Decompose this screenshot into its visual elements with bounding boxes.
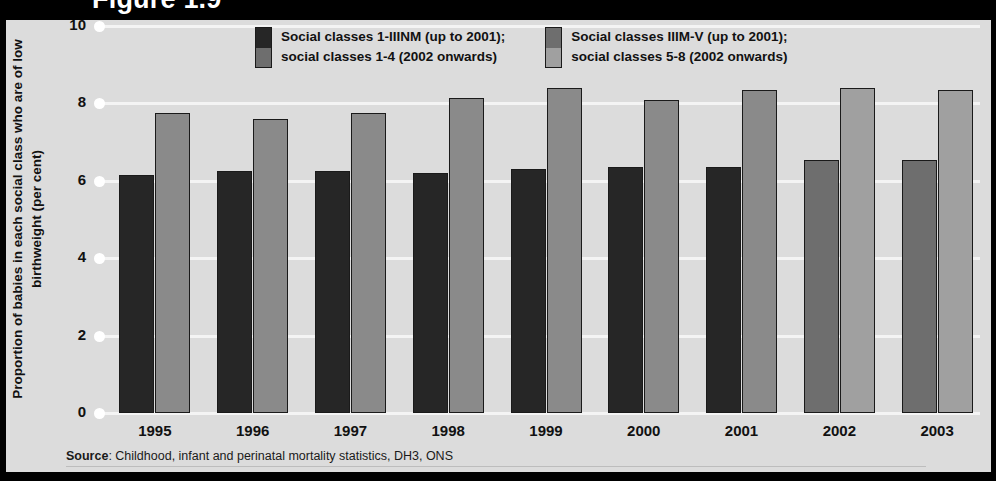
source-label: Source (66, 449, 108, 463)
chart-legend: Social classes 1-IIINM (up to 2001);soci… (255, 27, 787, 68)
y-tick-label: 6 (46, 171, 86, 188)
legend-swatch-icon (255, 27, 272, 68)
bar (315, 171, 350, 413)
x-tick-label: 2001 (693, 422, 791, 439)
y-tick-label: 8 (46, 93, 86, 110)
bar (351, 113, 386, 413)
legend-swatch-icon (545, 27, 562, 68)
bar (742, 90, 777, 413)
legend-label: Social classes IIIM-V (up to 2001);socia… (571, 27, 787, 67)
legend-label-line2: social classes 1-4 (2002 onwards) (281, 47, 505, 67)
bar (547, 88, 582, 413)
source-note: Source: Childhood, infant and perinatal … (66, 449, 453, 463)
bar (840, 88, 875, 413)
legend-label-line1: Social classes 1-IIINM (up to 2001); (281, 27, 505, 47)
x-tick-label: 2003 (888, 422, 986, 439)
left-edge (0, 20, 6, 472)
y-tick-label: 2 (46, 326, 86, 343)
bar (449, 98, 484, 413)
x-tick-label: 2002 (790, 422, 888, 439)
bar (706, 167, 741, 413)
x-tick-label: 1999 (497, 422, 595, 439)
y-tick-label: 0 (46, 403, 86, 420)
gridline-knob (94, 176, 105, 187)
x-tick-label: 2000 (595, 422, 693, 439)
legend-item-2: Social classes IIIM-V (up to 2001);socia… (545, 27, 787, 68)
source-divider (66, 466, 926, 467)
bar (511, 169, 546, 413)
bar (253, 119, 288, 413)
legend-label-line1: Social classes IIIM-V (up to 2001); (571, 27, 787, 47)
gridline-knob (94, 98, 105, 109)
source-text: : Childhood, infant and perinatal mortal… (108, 449, 453, 463)
legend-label: Social classes 1-IIINM (up to 2001);soci… (281, 27, 505, 67)
gridline-knob (94, 408, 105, 419)
legend-swatch-bottom (256, 48, 271, 68)
legend-label-line2: social classes 5-8 (2002 onwards) (571, 47, 787, 67)
top-black-band: Figure 1.9 (0, 0, 996, 20)
bar (119, 175, 154, 413)
bar (217, 171, 252, 413)
figure-title: Figure 1.9 (92, 0, 222, 15)
gridline-knob (94, 21, 105, 32)
y-tick-label: 4 (46, 248, 86, 265)
plot-area: 1086420199519961997199819992000200120022… (100, 26, 980, 413)
gridline-knob (94, 253, 105, 264)
legend-item-1: Social classes 1-IIINM (up to 2001);soci… (255, 27, 505, 68)
legend-swatch-top (546, 28, 561, 48)
legend-swatch-top (256, 28, 271, 48)
x-tick-label: 1996 (204, 422, 302, 439)
x-tick-label: 1998 (399, 422, 497, 439)
bar (644, 100, 679, 413)
right-edge (991, 20, 996, 472)
bar (413, 173, 448, 413)
bar (938, 90, 973, 413)
bar (902, 160, 937, 413)
y-axis-title: Proportion of babies in each social clas… (8, 24, 46, 414)
x-tick-label: 1995 (106, 422, 204, 439)
y-tick-label: 10 (46, 16, 86, 33)
x-tick-label: 1997 (302, 422, 400, 439)
figure-root: Figure 1.9 Proportion of babies in each … (0, 0, 996, 481)
bar (608, 167, 643, 413)
bottom-black-band (0, 472, 996, 481)
bar (804, 160, 839, 413)
legend-swatch-bottom (546, 48, 561, 68)
gridline-knob (94, 331, 105, 342)
bar (155, 113, 190, 413)
